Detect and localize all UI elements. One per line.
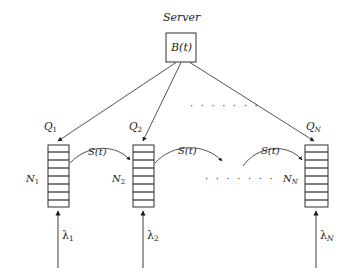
service-arc-2-label: S(t) — [178, 146, 197, 156]
queue-2-slots — [133, 152, 154, 200]
service-arc-1-label: S(t) — [88, 147, 107, 157]
arrival-rate-2-label: λ2 — [147, 230, 159, 241]
server-to-queue-1-arrow — [58, 63, 176, 142]
queue-n-count-label: NN — [283, 174, 298, 184]
queue-1-slots — [48, 152, 69, 200]
server-caption: Server — [163, 12, 200, 23]
queue-2-count-label: N2 — [112, 174, 125, 184]
server-to-queue-2-arrow — [143, 63, 181, 142]
queue-1-count-label: N1 — [26, 174, 39, 184]
queue-1-label: Q1 — [44, 121, 57, 132]
arrival-rate-1-label: λ1 — [62, 230, 74, 241]
queue-n-slots — [305, 152, 328, 200]
ellipsis-top: · · · · · · · — [190, 100, 260, 111]
ellipsis-middle: · · · · · · · — [205, 173, 275, 184]
service-arc-3-label: S(t) — [261, 146, 280, 156]
queueing-diagram: Server B(t) Q1 Q2 QN N1 N2 NN S(t) S(t) … — [0, 0, 357, 272]
queue-2-label: Q2 — [129, 121, 142, 132]
server-box-label: B(t) — [171, 42, 192, 53]
arrival-rate-n-label: λN — [320, 230, 334, 241]
queue-n-label: QN — [306, 121, 321, 132]
